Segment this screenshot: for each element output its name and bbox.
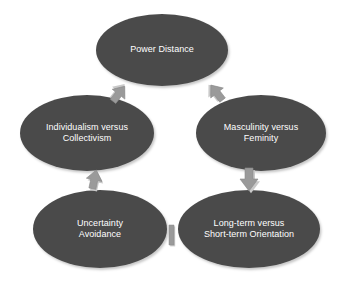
node-individualism-collectivism[interactable]: Individualism versusCollectivism	[20, 95, 154, 171]
node-power-distance-label: Power Distance	[103, 44, 221, 56]
arrow-up-icon	[83, 168, 107, 194]
node-power-distance[interactable]: Power Distance	[96, 14, 228, 86]
arrow-down-icon	[237, 166, 263, 196]
node-individualism-collectivism-label: Individualism versusCollectivism	[27, 122, 147, 145]
cycle-diagram: Power Distance Individualism versusColle…	[0, 0, 343, 283]
node-longterm-shortterm-orientation-label: Long-term versusShort-term Orientation	[185, 218, 313, 241]
arrow-down-right-icon	[203, 79, 227, 105]
node-uncertainty-avoidance[interactable]: UncertaintyAvoidance	[33, 190, 167, 268]
node-longterm-shortterm-orientation[interactable]: Long-term versusShort-term Orientation	[178, 190, 320, 268]
arrow-down-left-icon	[107, 79, 131, 105]
node-masculinity-feminity-label: Masculinity versusFeminity	[203, 122, 319, 145]
node-masculinity-feminity[interactable]: Masculinity versusFeminity	[196, 95, 326, 171]
node-uncertainty-avoidance-label: UncertaintyAvoidance	[40, 218, 160, 241]
arrow-left-icon	[165, 222, 179, 248]
